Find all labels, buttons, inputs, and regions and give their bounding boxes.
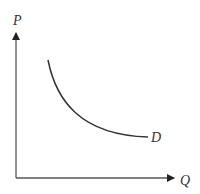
demand-diagram: P Q D	[0, 0, 200, 194]
x-axis-label: Q	[180, 173, 190, 188]
demand-curve	[48, 60, 148, 137]
curve-label: D	[150, 130, 161, 145]
y-axis-label: P	[12, 13, 22, 28]
